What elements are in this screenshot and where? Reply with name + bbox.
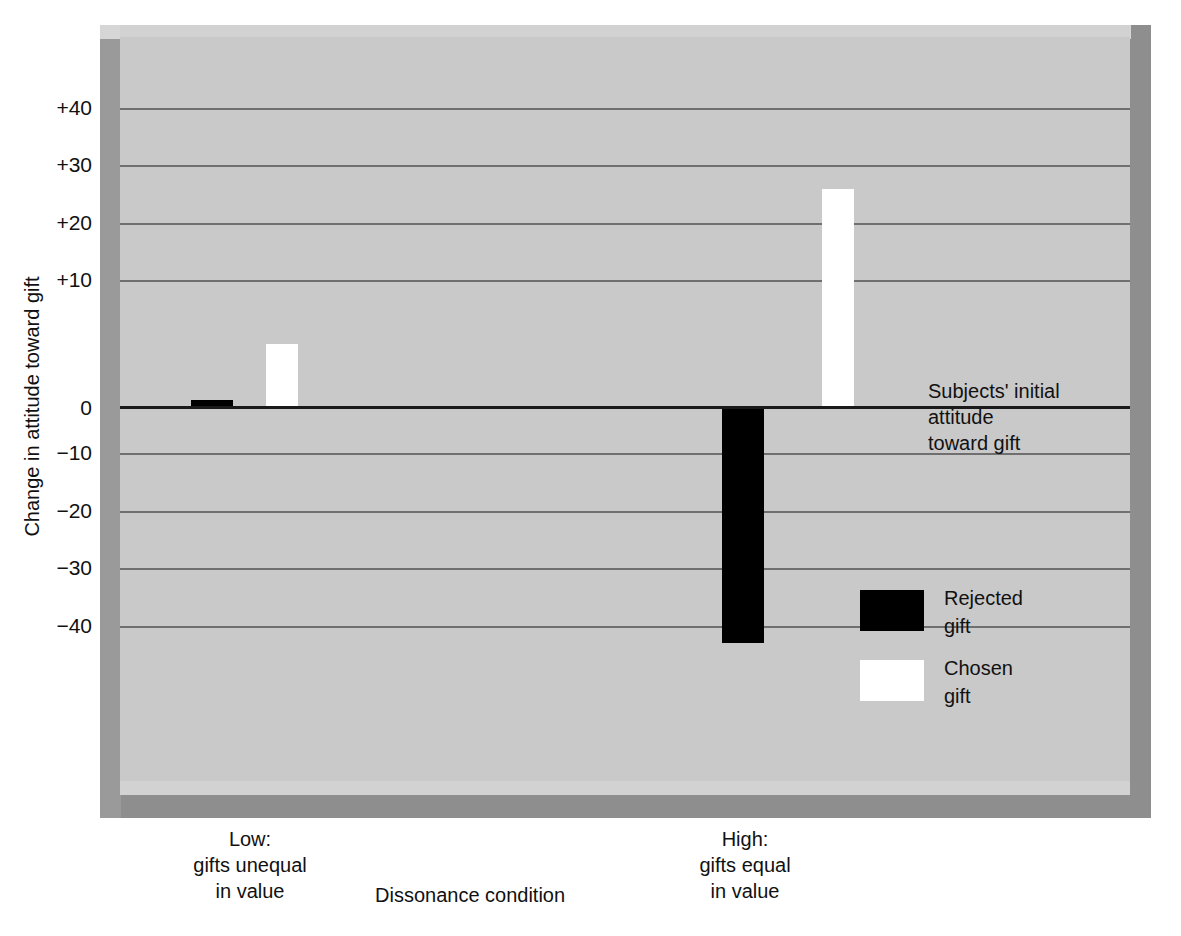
x-category-low: Low: gifts unequal in value (160, 826, 340, 904)
x-axis-title: Dissonance condition (375, 884, 565, 907)
x-category-high: High: gifts equal in value (655, 826, 835, 904)
y-tick-label-20: +20 (20, 211, 92, 235)
frame-shadow-right (1130, 25, 1151, 818)
zero-line-annotation: Subjects' initial attitude toward gift (928, 378, 1060, 456)
gridline-20 (120, 223, 1130, 225)
frame-bevel-left (100, 25, 121, 818)
gridline-10 (120, 280, 1130, 282)
plot-inner-highlight-top (120, 25, 1130, 37)
gridline-neg20 (120, 511, 1130, 513)
frame-shadow-bottom (120, 795, 1151, 818)
gridline-40 (120, 108, 1130, 110)
y-tick-label-30: +30 (20, 153, 92, 177)
bar-low-chosen-gift (266, 344, 298, 407)
legend-label-chosen-gift-line1: Chosen (944, 655, 1013, 681)
x-category-high-line3: in value (655, 878, 835, 904)
zero-line-leader-tail (895, 406, 925, 409)
legend-swatch-chosen-gift (860, 660, 924, 701)
annotation-line-2: attitude (928, 404, 1060, 430)
x-category-low-line1: Low: (160, 826, 340, 852)
legend-label-chosen-gift-line2: gift (944, 683, 971, 709)
gridline-neg40 (120, 626, 1130, 628)
bar-high-chosen-gift (822, 189, 854, 407)
x-category-high-line1: High: (655, 826, 835, 852)
legend-label-rejected-gift-line1: Rejected (944, 585, 1023, 611)
legend-label-rejected-gift-line2: gift (944, 613, 971, 639)
chart-figure: +40 +30 +20 +10 0 −10 −20 −30 −40 Change… (0, 0, 1181, 936)
x-category-low-line3: in value (160, 878, 340, 904)
gridline-neg30 (120, 568, 1130, 570)
annotation-line-1: Subjects' initial (928, 378, 1060, 404)
legend-swatch-rejected-gift (860, 590, 924, 631)
y-tick-label-neg30: −30 (20, 556, 92, 580)
x-category-high-line2: gifts equal (655, 852, 835, 878)
gridline-30 (120, 165, 1130, 167)
y-axis-title: Change in attitude toward gift (21, 257, 44, 557)
y-tick-label-neg40: −40 (20, 614, 92, 638)
x-category-low-line2: gifts unequal (160, 852, 340, 878)
annotation-line-3: toward gift (928, 430, 1060, 456)
y-tick-label-40: +40 (20, 96, 92, 120)
bar-high-rejected-gift (722, 407, 764, 643)
plot-inner-highlight-bottom (120, 781, 1130, 795)
